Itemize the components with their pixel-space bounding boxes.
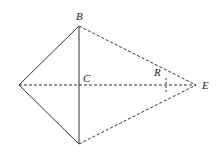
edge-a-d (19, 85, 79, 144)
label-r: R (153, 66, 161, 78)
edge-a-b (19, 26, 79, 85)
edge-d-e-dashed (79, 85, 196, 144)
label-c: C (83, 72, 91, 84)
kite-diagram: B C R E (0, 0, 222, 158)
label-b: B (76, 10, 83, 22)
label-e: E (201, 79, 209, 91)
edge-b-e-dashed (79, 26, 196, 85)
